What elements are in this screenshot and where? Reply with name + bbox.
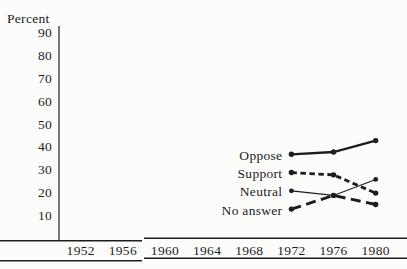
data-point-neutral-1972	[289, 188, 294, 193]
data-point-support-1976	[331, 172, 336, 177]
x-tick-label-1980: 1980	[362, 243, 390, 259]
series-label-neutral: Neutral	[0, 184, 282, 200]
x-tick-label-1972: 1972	[277, 243, 305, 259]
data-point-support-1972	[289, 170, 294, 175]
data-point-support-1980	[373, 190, 378, 195]
y-tick-label-60: 60	[0, 93, 52, 109]
series-label-support: Support	[0, 166, 282, 182]
x-tick-label-1956: 1956	[109, 243, 137, 259]
data-point-neutral-1980	[373, 177, 378, 182]
figure-canvas: Percent 908070605040302010 1952195619601…	[0, 0, 407, 269]
series-label-oppose: Oppose	[0, 148, 282, 164]
data-point-oppose-1972	[289, 152, 294, 157]
x-tick-label-1964: 1964	[193, 243, 221, 259]
x-tick-label-1960: 1960	[151, 243, 179, 259]
series-label-no-answer: No answer	[0, 203, 282, 219]
y-tick-label-50: 50	[0, 116, 52, 132]
x-tick-label-1968: 1968	[235, 243, 263, 259]
data-point-no-answer-1980	[373, 202, 378, 207]
x-tick-label-1976: 1976	[319, 243, 347, 259]
plot-area	[0, 0, 407, 269]
y-tick-label-70: 70	[0, 71, 52, 87]
data-point-no-answer-1972	[289, 206, 294, 211]
data-point-no-answer-1976	[331, 193, 336, 198]
data-point-oppose-1976	[331, 149, 336, 154]
y-tick-label-90: 90	[0, 25, 52, 41]
data-point-oppose-1980	[373, 138, 378, 143]
y-tick-label-80: 80	[0, 48, 52, 64]
x-tick-label-1952: 1952	[67, 243, 95, 259]
